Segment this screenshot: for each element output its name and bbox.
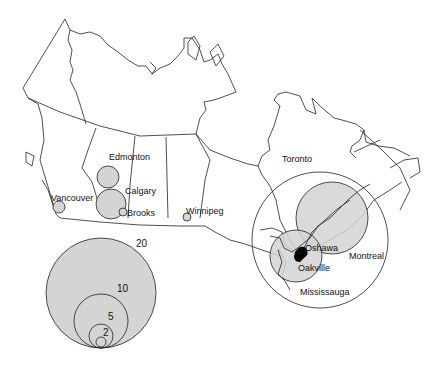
label-calgary: Calgary — [125, 186, 157, 196]
brooks-circle — [119, 208, 127, 216]
edmonton-circle — [97, 166, 119, 188]
label-montreal: Montreal — [349, 251, 384, 261]
legend-label-2: 2 — [103, 327, 109, 338]
label-edmonton: Edmonton — [109, 152, 150, 162]
label-oakville: Oakville — [298, 263, 330, 273]
label-oshawa: Oshawa — [305, 243, 338, 253]
label-winnipeg: Winnipeg — [186, 206, 224, 216]
legend-label-5: 5 — [108, 311, 114, 322]
label-brooks: Brooks — [127, 208, 156, 218]
legend-label-20: 20 — [136, 238, 148, 249]
size-legend: 20 10 5 2 — [46, 238, 156, 348]
legend-label-10: 10 — [117, 283, 129, 294]
label-mississauga: Mississauga — [300, 287, 350, 297]
label-vancouver: Vancouver — [51, 193, 93, 203]
label-toronto: Toronto — [282, 154, 312, 164]
canada-map: Edmonton Calgary Vancouver Brooks Winnip… — [0, 0, 442, 366]
map-figure: Edmonton Calgary Vancouver Brooks Winnip… — [0, 0, 442, 366]
